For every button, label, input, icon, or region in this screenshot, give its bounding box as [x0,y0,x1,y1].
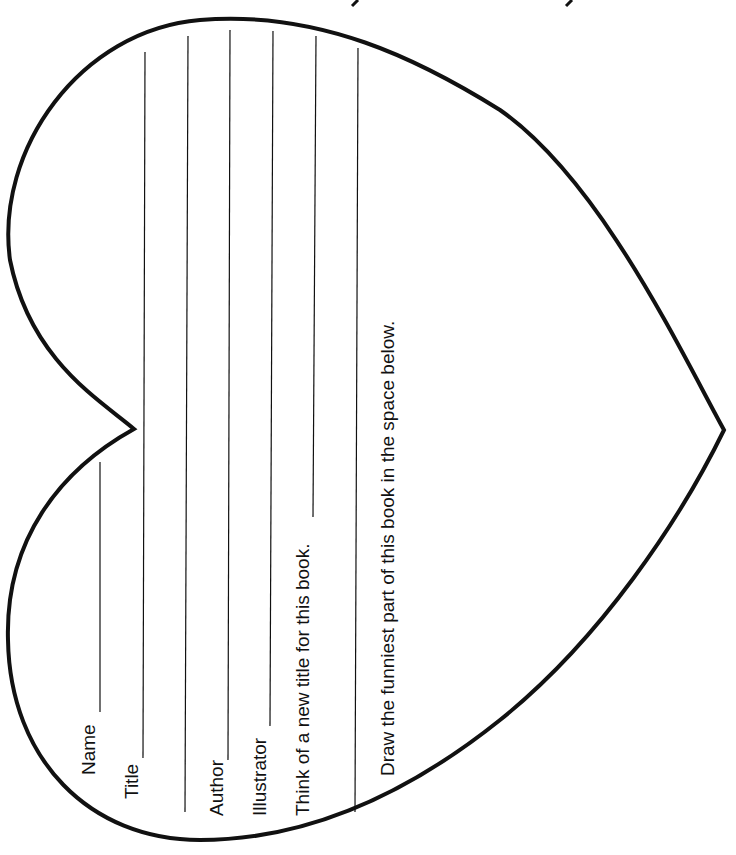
heart-outline [8,19,724,840]
illustrator-label: Illustrator [250,738,269,816]
author-label: Author [207,760,226,816]
draw-prompt: Draw the funniest part of this book in t… [378,321,397,776]
new-title-prompt: Think of a new title for this book. [293,544,312,816]
name-label: Name [79,724,98,775]
title-label: Title [122,764,141,799]
cut-off-title-fragment [566,0,572,6]
heart-worksheet [0,0,736,855]
cut-off-title-fragment [352,0,358,6]
